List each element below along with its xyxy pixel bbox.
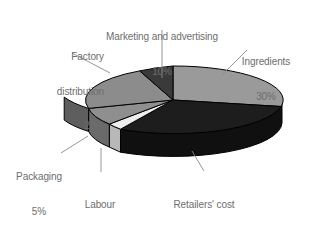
slice-label-marketing-and-advertising: Marketing and advertising 10% [96, 8, 228, 100]
slice-label-marketing-name: Marketing and advertising [96, 31, 228, 43]
slice-label-marketing-value: 10% [96, 66, 228, 78]
slice-label-ingredients-name: Ingredients [228, 56, 304, 68]
slice-label-factory-value: 20% [12, 120, 104, 132]
slice-label-ingredients-value: 30% [228, 91, 304, 103]
slice-label-packaging: Packaging 5% [6, 148, 72, 228]
slice-label-ingredients: Ingredients 30% [228, 33, 304, 125]
slice-label-labour: Labour 5% [76, 176, 124, 228]
slice-label-retailers-name-line1: Retailers' cost [158, 199, 250, 211]
slice-label-factory-distribution: Factory distribution 20% [12, 28, 104, 155]
slice-label-factory-name-line1: Factory [12, 51, 104, 63]
slice-label-retailers-cost-and-profit: Retailers' cost and profit 30% [158, 176, 250, 228]
slice-label-factory-name-line2: distribution [12, 86, 104, 98]
slice-label-labour-name: Labour [76, 199, 124, 211]
slice-label-packaging-value: 5% [6, 206, 72, 218]
pie-chart-figure: Marketing and advertising 10% Ingredient… [0, 0, 319, 228]
slice-label-packaging-name: Packaging [6, 171, 72, 183]
